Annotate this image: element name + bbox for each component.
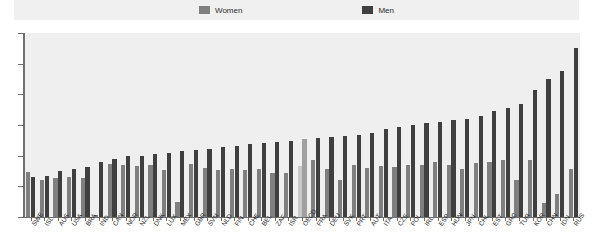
bar-group	[81, 33, 90, 217]
bar-women	[216, 170, 220, 217]
legend-label-men: Men	[378, 6, 394, 15]
bar-women	[325, 169, 329, 217]
bar-group	[67, 33, 76, 217]
bar-women	[270, 173, 274, 217]
bar-group	[175, 33, 184, 217]
bar-women	[392, 167, 396, 217]
y-axis-tick-mark	[18, 94, 23, 95]
bar-men	[85, 167, 89, 217]
bar-men	[180, 151, 184, 217]
bar-women	[189, 164, 193, 217]
bar-men	[235, 146, 239, 217]
bar-men	[289, 141, 293, 217]
bar-group	[555, 33, 564, 217]
bar-women	[569, 169, 573, 217]
bar-men	[506, 108, 510, 217]
bar-group	[433, 33, 442, 217]
bar-group	[447, 33, 456, 217]
bar-group	[94, 33, 103, 217]
bar-men	[451, 120, 455, 217]
bar-men	[465, 119, 469, 217]
square-swatch-icon	[199, 6, 210, 14]
bar-group	[501, 33, 510, 217]
bar-group	[40, 33, 49, 217]
bar-men	[492, 111, 496, 217]
bar-men	[411, 125, 415, 217]
bar-men	[153, 154, 157, 217]
bar-group	[325, 33, 334, 217]
bar-women	[230, 169, 234, 217]
bar-men	[424, 123, 428, 217]
legend-item-men: Men	[362, 6, 394, 15]
bar-men	[72, 169, 76, 217]
bar-men	[546, 79, 550, 217]
bar-men	[112, 159, 116, 217]
bar-group	[487, 33, 496, 217]
bar-women	[243, 170, 247, 217]
bar-women	[338, 180, 342, 217]
bar-women	[148, 165, 152, 217]
bar-women	[365, 168, 369, 217]
bar-men	[194, 150, 198, 217]
bar-men	[262, 143, 266, 217]
bar-men	[316, 138, 320, 217]
bar-women	[298, 166, 302, 217]
bar-group	[216, 33, 225, 217]
bar-men	[533, 90, 537, 217]
bar-men	[519, 104, 523, 217]
bar-men	[560, 71, 564, 217]
bar-group	[474, 33, 483, 217]
bar-group	[338, 33, 347, 217]
chart-root: Women Men 0102030405060 SWEISLAUSUSABRAI…	[0, 0, 592, 246]
bar-men	[207, 149, 211, 217]
bar-women	[67, 177, 71, 217]
bar-group	[311, 33, 320, 217]
bar-group	[148, 33, 157, 217]
bar-men	[45, 176, 49, 217]
bar-group	[203, 33, 212, 217]
bar-men	[58, 171, 62, 217]
bar-women	[501, 160, 505, 217]
bar-group	[243, 33, 252, 217]
bar-men	[384, 129, 388, 217]
bar-women	[108, 164, 112, 217]
bar-women	[379, 166, 383, 217]
bar-women	[433, 162, 437, 217]
bar-men	[99, 162, 103, 217]
bar-group	[108, 33, 117, 217]
bar-group	[352, 33, 361, 217]
bar-group	[284, 33, 293, 217]
y-axis-tick-mark	[18, 156, 23, 157]
bar-women	[26, 172, 30, 217]
bar-men	[574, 48, 578, 217]
bar-men	[275, 142, 279, 217]
bar-men	[140, 156, 144, 217]
bar-men	[343, 136, 347, 217]
bar-women	[352, 165, 356, 217]
bar-group	[528, 33, 537, 217]
bar-group	[460, 33, 469, 217]
bar-men	[221, 147, 225, 217]
bar-men	[126, 156, 130, 217]
bar-group	[379, 33, 388, 217]
y-axis-tick-mark	[18, 64, 23, 65]
bar-men	[479, 116, 483, 217]
bar-group	[53, 33, 62, 217]
bar-men	[248, 144, 252, 217]
bar-women	[447, 165, 451, 217]
bar-men	[167, 153, 171, 217]
bar-women	[203, 168, 207, 217]
y-axis-tick-mark	[18, 217, 23, 218]
bar-group	[162, 33, 171, 217]
y-axis-tick-mark	[18, 33, 23, 34]
chart-legend: Women Men	[14, 0, 579, 20]
bar-women	[162, 170, 166, 217]
bar-men	[329, 137, 333, 217]
bar-men	[397, 127, 401, 217]
legend-label-women: Women	[215, 6, 242, 15]
bar-women	[406, 165, 410, 217]
bar-women	[474, 163, 478, 217]
legend-item-women: Women	[199, 6, 242, 15]
bar-group	[365, 33, 374, 217]
bar-group	[298, 33, 307, 217]
